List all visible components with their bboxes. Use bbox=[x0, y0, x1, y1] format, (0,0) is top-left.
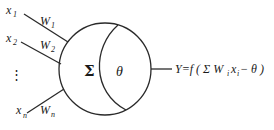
svg-text:i: i bbox=[227, 69, 229, 78]
svg-text:1: 1 bbox=[13, 10, 17, 19]
input-label-1: x 1 W 1 bbox=[5, 3, 55, 30]
ellipsis-icon: ⋮ bbox=[10, 67, 23, 82]
svg-text:− θ ): − θ ) bbox=[240, 62, 264, 76]
sum-symbol: Σ bbox=[84, 62, 95, 80]
input-label-2: x 2 W 2 bbox=[5, 31, 55, 54]
threshold-symbol: θ bbox=[116, 64, 123, 79]
svg-text:x: x bbox=[5, 3, 12, 17]
svg-text:2: 2 bbox=[51, 45, 55, 54]
svg-text:i: i bbox=[237, 69, 239, 78]
svg-text:1: 1 bbox=[51, 21, 55, 30]
svg-text:Y=f ( Σ W: Y=f ( Σ W bbox=[175, 62, 224, 76]
svg-text:n: n bbox=[51, 110, 55, 119]
svg-text:x: x bbox=[230, 62, 237, 76]
svg-text:x: x bbox=[5, 31, 12, 45]
svg-text:W: W bbox=[40, 103, 51, 117]
input-label-n: x n W n bbox=[15, 103, 55, 120]
neuron-body bbox=[59, 23, 151, 115]
svg-text:W: W bbox=[40, 38, 51, 52]
svg-text:2: 2 bbox=[13, 38, 17, 47]
svg-text:n: n bbox=[23, 111, 27, 120]
output-formula: Y=f ( Σ W i x i − θ ) bbox=[175, 62, 264, 78]
svg-text:W: W bbox=[40, 14, 51, 28]
neuron-diagram: x 1 W 1 x 2 W 2 ⋮ x n W n Σ θ Y=f ( Σ W … bbox=[0, 0, 274, 130]
svg-text:x: x bbox=[15, 103, 22, 117]
